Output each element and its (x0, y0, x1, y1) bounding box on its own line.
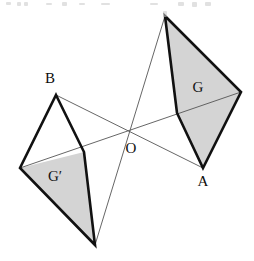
scan-artifact (192, 2, 197, 7)
scan-artifact (6, 2, 11, 5)
scan-artifact (205, 2, 211, 6)
geometry-figure: B A O G G′ (0, 0, 254, 261)
scan-artifact (150, 3, 158, 5)
scan-artifact (101, 3, 110, 5)
vertex-label-a: A (198, 173, 209, 189)
scan-artifact (62, 2, 67, 6)
vertex-label-o: O (126, 140, 137, 156)
scan-artifact (24, 2, 28, 6)
geometry-canvas: B A O G G′ (0, 0, 254, 261)
scan-artifact (163, 11, 167, 17)
scan-artifact (79, 3, 85, 5)
scan-artifact (46, 3, 52, 5)
region-label-g-prime: G′ (48, 168, 62, 184)
vertex-label-b: B (45, 70, 55, 86)
scan-artifact (178, 2, 184, 6)
region-label-g: G (193, 79, 204, 95)
scan-artifact (17, 2, 21, 6)
